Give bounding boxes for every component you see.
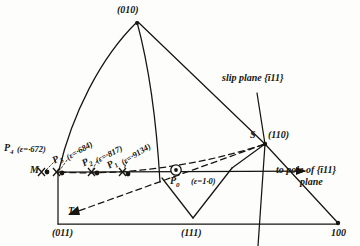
epsilon-P4: (ε=·672) — [17, 145, 46, 154]
epsilon-P0: (ε=1·0) — [191, 177, 216, 186]
stereographic-projection-figure: arrow to right --> — [0, 0, 360, 246]
dot-marker-S — [263, 142, 267, 146]
dot-marker-100 — [336, 221, 340, 225]
slip-plane-lower — [258, 144, 265, 246]
p0-marker — [171, 165, 181, 175]
slip-plane-upper — [257, 93, 265, 144]
line-v-right-upper — [232, 144, 265, 168]
pole-label-111: (111) — [181, 228, 202, 238]
label-S-index: (110) — [268, 130, 289, 140]
dot-marker-010 — [135, 21, 139, 25]
pole-label-011: (011) — [52, 228, 73, 238]
dot-marker — [126, 172, 131, 177]
point-label-P0: P0 — [170, 176, 180, 189]
pole-label-010: (010) — [117, 5, 139, 15]
label-S: S — [250, 130, 256, 140]
dot-marker — [95, 171, 100, 176]
dot-marker — [60, 171, 65, 176]
label-M: M — [30, 165, 39, 175]
diagram-canvas: arrow to right --> — [0, 0, 360, 246]
great-circle-mid — [137, 22, 160, 182]
to-pole-caption-line1: to pole of {ī11} — [276, 165, 336, 175]
line-010-to-S — [138, 22, 265, 144]
point-label-P4: P4 — [4, 143, 14, 156]
label-T: T — [68, 206, 74, 216]
great-circle-left — [59, 22, 137, 170]
to-pole-caption-line2: plane — [300, 177, 323, 187]
cross-marker — [38, 168, 45, 176]
pole-label-100: 100 — [331, 228, 346, 238]
dot-markers — [45, 21, 341, 225]
dot-marker — [45, 170, 50, 175]
slip-plane-caption: slip plane {ī11} — [222, 73, 283, 83]
